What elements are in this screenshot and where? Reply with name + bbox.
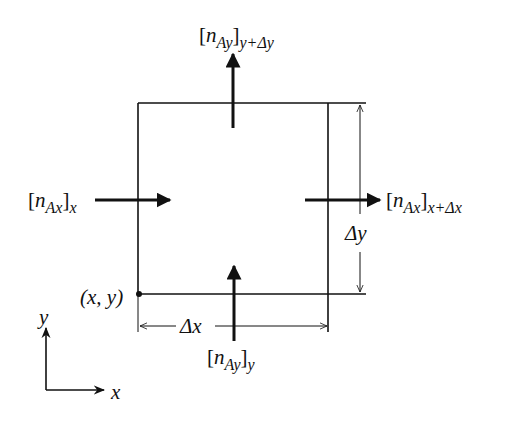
flux-label-bottom: [nAy]y (207, 345, 256, 374)
control-volume-diagram: [nAy]y+Δy [nAx]x [nAx]x+Δx [nAy]y (x, y)… (0, 0, 508, 426)
flux-label-top: [nAy]y+Δy (199, 23, 275, 52)
control-volume-box (138, 103, 366, 332)
axis-x-label: x (110, 380, 121, 404)
coordinate-axes (46, 328, 104, 390)
axis-y-label: y (37, 305, 49, 329)
corner-label: (x, y) (80, 285, 123, 309)
flux-label-left: [nAx]x (28, 188, 76, 216)
dimension-y-label: Δy (344, 221, 367, 245)
flux-label-right: [nAx]x+Δx (386, 188, 462, 216)
dimension-x-label: Δx (179, 314, 202, 338)
corner-point (136, 291, 142, 297)
